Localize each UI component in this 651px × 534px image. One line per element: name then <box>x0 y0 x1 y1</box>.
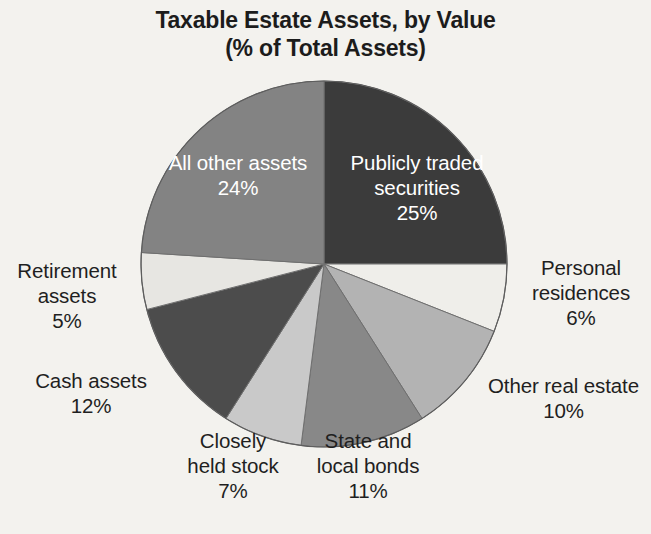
slice-label-closely-held-stock: Closely held stock 7% <box>163 428 303 503</box>
slice-label-publicly-traded-securities: Publicly traded securities 25% <box>333 150 501 225</box>
slice-label-all-other-assets: All other assets 24% <box>152 150 324 200</box>
slice-label-name-line-1: Cash assets <box>15 368 167 393</box>
slice-label-percent: 11% <box>292 478 444 503</box>
slice-label-percent: 5% <box>2 308 132 333</box>
slice-label-name-line-2: local bonds <box>292 453 444 478</box>
slice-label-name-line-1: Publicly traded <box>333 150 501 175</box>
slice-label-percent: 25% <box>333 200 501 225</box>
slice-label-state-and-local-bonds: State and local bonds 11% <box>292 428 444 503</box>
pie-chart-figure: Publicly traded securities 25% All other… <box>0 0 651 534</box>
slice-label-percent: 7% <box>163 478 303 503</box>
slice-label-cash-assets: Cash assets 12% <box>15 368 167 418</box>
slice-label-name-line-1: Other real estate <box>476 373 651 398</box>
slice-label-name-line-1: State and <box>292 428 444 453</box>
slice-label-name-line-2: securities <box>333 175 501 200</box>
slice-label-percent: 6% <box>516 305 646 330</box>
slice-label-name-line-1: Closely <box>163 428 303 453</box>
slice-label-percent: 24% <box>152 175 324 200</box>
slice-label-percent: 12% <box>15 393 167 418</box>
slice-label-name-line-1: All other assets <box>152 150 324 175</box>
slice-label-name-line-1: Personal <box>516 255 646 280</box>
pie-slice-group <box>141 81 507 447</box>
slice-label-personal-residences: Personal residences 6% <box>516 255 646 330</box>
slice-label-name-line-1: Retirement <box>2 258 132 283</box>
slice-label-retirement-assets: Retirement assets 5% <box>2 258 132 333</box>
slice-label-other-real-estate: Other real estate 10% <box>476 373 651 423</box>
slice-label-name-line-2: assets <box>2 283 132 308</box>
slice-label-percent: 10% <box>476 398 651 423</box>
slice-label-name-line-2: held stock <box>163 453 303 478</box>
slice-label-name-line-2: residences <box>516 280 646 305</box>
